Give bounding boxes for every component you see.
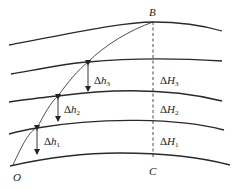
- leveling-diagram: B O C Δh3 Δh2 Δh1 ΔH3 ΔH2 ΔH1: [0, 0, 234, 189]
- level-surface-1: [9, 120, 224, 134]
- label-dH1: ΔH1: [160, 135, 179, 149]
- point-B-label: B: [149, 6, 156, 18]
- level-surface-3: [11, 59, 222, 74]
- label-dH3: ΔH3: [160, 74, 179, 88]
- point-C-label: C: [149, 165, 157, 177]
- label-dh1: Δh1: [44, 135, 61, 149]
- label-dh3: Δh3: [94, 74, 111, 88]
- label-dH2: ΔH2: [160, 103, 179, 117]
- point-O-label: O: [13, 171, 21, 183]
- level-surface-top: [9, 22, 222, 45]
- label-dh2: Δh2: [64, 103, 81, 117]
- level-surface-2: [9, 91, 222, 102]
- level-surface-bottom: [10, 153, 230, 166]
